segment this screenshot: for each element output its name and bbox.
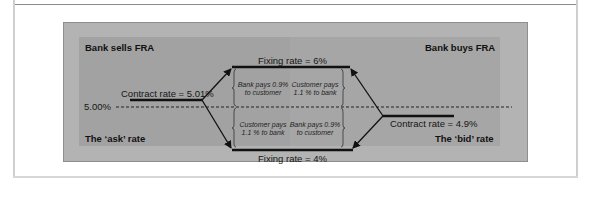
note-lower-right: Bank pays 0.9% to customer: [289, 121, 341, 137]
arrow-bid-down: [353, 116, 383, 148]
brace-lower-right: [341, 108, 345, 147]
fixing-low-label: Fixing rate = 4%: [258, 153, 327, 164]
note-lower-left: Customer pays 1.1 % to bank: [237, 121, 289, 137]
corner-bank-sells: Bank sells FRA: [85, 42, 154, 53]
brace-lower-left: [232, 108, 236, 147]
corner-bid-rate: The ‘bid’ rate: [435, 133, 494, 144]
corner-ask-rate: The ‘ask’ rate: [85, 133, 145, 144]
note-upper-right: Customer pays 1.1 % to bank: [289, 81, 341, 97]
note-upper-left: Bank pays 0.9% to customer: [237, 81, 289, 97]
arrow-bid-up: [351, 69, 383, 116]
brace-upper-right: [341, 69, 345, 106]
brace-upper-left: [232, 69, 236, 106]
fixing-high-label: Fixing rate = 6%: [258, 55, 327, 66]
contract-ask-label: Contract rate = 5.01%: [121, 88, 214, 99]
contract-bid-label: Contract rate = 4.9%: [390, 118, 477, 129]
reference-rate-label: 5.00%: [84, 101, 111, 112]
corner-bank-buys: Bank buys FRA: [425, 42, 495, 53]
